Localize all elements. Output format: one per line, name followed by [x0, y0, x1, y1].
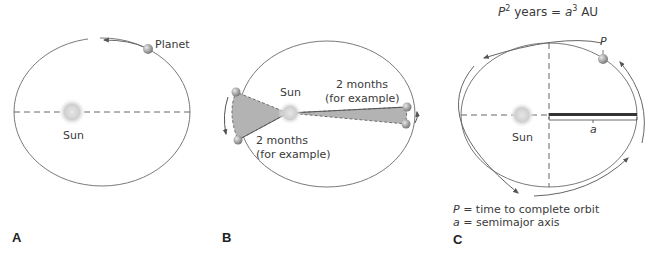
- planet-icon: [234, 136, 243, 145]
- sun-icon: [509, 102, 535, 128]
- sun-label: Sun: [63, 129, 84, 142]
- legend-period: P = time to complete orbit: [453, 203, 600, 216]
- semimajor-axis-label: a: [590, 123, 597, 136]
- planet-icon: [143, 44, 153, 54]
- orbit-arrow-right: [620, 62, 644, 143]
- panel-label-c: C: [453, 232, 463, 247]
- panel-label-b: B: [222, 230, 231, 245]
- semimajor-axis-bar: [549, 113, 637, 116]
- area-label-left-2: (for example): [256, 148, 331, 161]
- direction-arrow-left: [224, 97, 228, 134]
- planet-icon: [402, 120, 411, 129]
- area-label-right-1: 2 months: [336, 78, 388, 91]
- planet-label: Planet: [155, 38, 190, 51]
- panel-label-a: A: [12, 230, 22, 245]
- sun-label: Sun: [280, 86, 301, 99]
- planet-icon: [598, 54, 608, 64]
- orbit-arrow-left: [458, 66, 518, 193]
- period-label: P: [600, 35, 607, 48]
- panel-c: P2 years = a3 AU a Sun P P = time to com…: [453, 4, 644, 247]
- kepler-third-law-formula: P2 years = a3 AU: [498, 4, 598, 19]
- sun-label: Sun: [512, 131, 533, 144]
- sun-icon: [278, 101, 302, 125]
- legend-semimajor: a = semimajor axis: [453, 216, 560, 229]
- area-label-right-2: (for example): [325, 92, 400, 105]
- panel-b: Sun 2 months (for example) 2 months (for…: [222, 41, 417, 245]
- planet-icon: [232, 88, 241, 97]
- orbit-direction-arrow: [104, 40, 146, 48]
- sun-icon: [58, 98, 86, 126]
- panel-a: Sun Planet A: [12, 34, 190, 245]
- area-label-left-1: 2 months: [256, 134, 308, 147]
- orbit-ellipse: [14, 38, 190, 186]
- planet-icon: [403, 103, 412, 112]
